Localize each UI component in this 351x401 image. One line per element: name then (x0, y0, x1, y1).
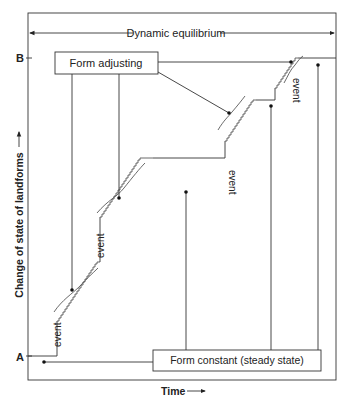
svg-text:Change of state of landforms: Change of state of landforms (13, 152, 25, 297)
x-axis-label: Time (161, 385, 205, 397)
landform-equilibrium-diagram: Dynamic equilibrium B A Change of state … (0, 0, 351, 401)
level-b-label: B (16, 52, 24, 64)
form-constant-group: Form constant (steady state) (42, 63, 321, 371)
constant-dot-4 (316, 63, 320, 67)
form-adjusting-group: Form adjusting (55, 52, 293, 292)
y-axis-label: Change of state of landforms (13, 132, 25, 298)
form-constant-label: Form constant (steady state) (170, 354, 304, 366)
constant-dot-1 (42, 360, 46, 364)
form-adjusting-label: Form adjusting (70, 57, 143, 69)
constant-dot-2 (184, 190, 188, 194)
level-a-label: A (16, 351, 24, 363)
event-label-1: event (52, 322, 63, 347)
transition-curves (54, 56, 303, 312)
event-label-4: event (291, 78, 302, 103)
event-label-2: event (95, 233, 106, 258)
dynamic-equilibrium-label: Dynamic equilibrium (126, 27, 225, 39)
state-step-path (28, 58, 336, 356)
svg-text:Time: Time (161, 385, 185, 397)
constant-dot-3 (269, 104, 273, 108)
adjusting-dot-4 (289, 60, 293, 64)
dynamic-equilibrium-arrow: Dynamic equilibrium (30, 27, 334, 39)
adjusting-dot-3 (227, 111, 231, 115)
adjusting-connector-3 (158, 72, 229, 113)
adjusting-dot-1 (70, 288, 74, 292)
event-label-3: event (227, 170, 238, 195)
adjusting-dot-2 (117, 196, 121, 200)
